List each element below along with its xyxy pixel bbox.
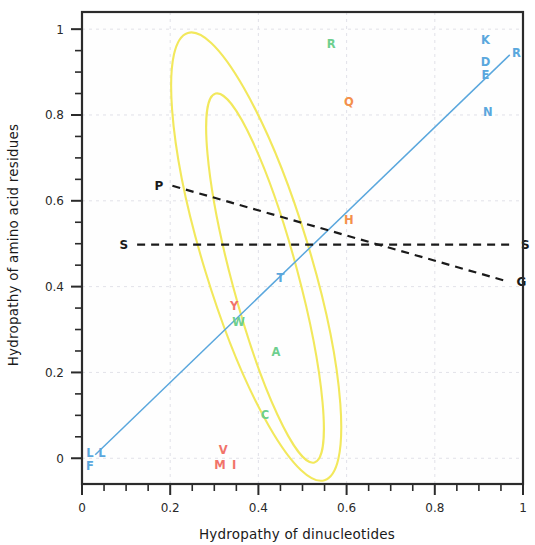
y-tick-label: 0.8 xyxy=(45,108,64,122)
data-point-label-V: V xyxy=(219,443,228,457)
data-point-label-L: L xyxy=(86,446,94,460)
data-point-label-H: H xyxy=(344,213,354,227)
data-point-label-Y: Y xyxy=(229,299,239,313)
x-tick-label: 0.2 xyxy=(161,501,180,515)
data-point-label-R: R xyxy=(512,46,521,60)
x-tick-label: 0.8 xyxy=(425,501,444,515)
p-to-g-line-end-label: G xyxy=(517,275,527,289)
grid-layer xyxy=(82,12,523,484)
data-point-label-L: L xyxy=(98,446,106,460)
data-point-label-I: I xyxy=(232,458,236,472)
data-point-label-Q: Q xyxy=(344,95,354,109)
data-point-label-A: A xyxy=(272,345,281,359)
y-tick-label: 0.4 xyxy=(45,280,64,294)
chart-canvas: SSPG RQHTYWACVMILLFKDENR 00.20.40.60.810… xyxy=(0,0,535,545)
y-axis-title: Hydropathy of amino acid residues xyxy=(5,124,21,367)
data-point-label-W: W xyxy=(232,315,245,329)
y-tick-label: 1 xyxy=(56,23,64,37)
x-tick-label: 0.6 xyxy=(337,501,356,515)
data-point-label-F: F xyxy=(86,459,94,473)
x-tick-label: 1 xyxy=(519,501,527,515)
data-point-label-T: T xyxy=(277,271,285,285)
x-tick-label: 0 xyxy=(78,501,86,515)
y-tick-label: 0.2 xyxy=(45,366,64,380)
y-tick-label: 0.6 xyxy=(45,194,64,208)
s-baseline-start-label: S xyxy=(119,238,128,252)
data-point-label-E: E xyxy=(482,68,490,82)
p-to-g-line-start-label: P xyxy=(155,179,164,193)
data-point-label-N: N xyxy=(483,105,493,119)
x-axis-title: Hydropathy of dinucleotides xyxy=(199,526,395,542)
data-point-label-C: C xyxy=(261,408,269,422)
x-tick-label: 0.4 xyxy=(249,501,268,515)
data-point-label-M: M xyxy=(214,458,225,472)
hydropathy-scatter-figure: SSPG RQHTYWACVMILLFKDENR 00.20.40.60.810… xyxy=(0,0,535,545)
plot-background xyxy=(82,12,523,484)
data-point-label-R: R xyxy=(327,37,336,51)
y-tick-label: 0 xyxy=(56,452,64,466)
data-point-label-K: K xyxy=(481,33,491,47)
